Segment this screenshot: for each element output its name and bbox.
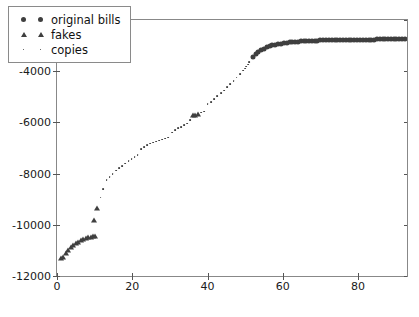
- data-point-copies: [146, 145, 148, 147]
- dot-marker-icon: [40, 49, 42, 51]
- legend-entry-original-bills: original bills: [15, 12, 121, 27]
- x-axis-tick-label: 20: [125, 280, 139, 293]
- data-point-copies: [174, 129, 176, 131]
- data-point-fakes: [92, 233, 98, 238]
- y-tick-mark: [404, 174, 407, 175]
- data-point-copies: [115, 170, 117, 172]
- data-point-copies: [100, 197, 102, 199]
- y-tick-mark: [57, 71, 60, 72]
- legend-label-copies: copies: [51, 43, 88, 57]
- data-point-copies: [112, 173, 114, 175]
- y-tick-mark: [57, 225, 60, 226]
- data-point-fakes: [94, 206, 100, 211]
- y-tick-mark: [404, 20, 407, 21]
- x-axis-tick-label: 60: [276, 280, 290, 293]
- data-point-copies: [149, 143, 151, 145]
- data-point-copies: [143, 147, 145, 149]
- chart-legend: original bills fakes copies: [8, 6, 131, 63]
- y-axis-tick-label: -10000: [12, 218, 51, 231]
- data-point-copies: [158, 140, 160, 142]
- x-tick-mark: [132, 273, 133, 276]
- data-point-copies: [121, 165, 123, 167]
- data-point-copies: [155, 141, 157, 143]
- legend-label-original-bills: original bills: [51, 13, 121, 27]
- data-point-copies: [233, 80, 235, 82]
- data-point-copies: [125, 163, 127, 165]
- data-point-copies: [220, 93, 222, 95]
- data-point-copies: [207, 104, 209, 106]
- data-point-copies: [210, 101, 212, 103]
- y-axis-tick-label: -12000: [12, 270, 51, 283]
- y-tick-mark: [404, 276, 407, 277]
- data-point-copies: [247, 64, 249, 66]
- data-point-fakes: [91, 217, 97, 222]
- triangle-marker-icon: [38, 32, 44, 37]
- y-tick-mark: [404, 71, 407, 72]
- legend-label-fakes: fakes: [51, 28, 81, 42]
- data-point-copies: [226, 86, 228, 88]
- data-point-copies: [152, 142, 154, 144]
- legend-marker-fakes: [15, 32, 49, 37]
- data-point-copies: [244, 68, 246, 70]
- y-tick-mark: [404, 225, 407, 226]
- x-tick-mark: [283, 273, 284, 276]
- x-axis-tick-label: 80: [351, 280, 365, 293]
- data-point-copies: [189, 119, 191, 121]
- data-point-copies: [216, 95, 218, 97]
- x-axis-tick-label: 40: [201, 280, 215, 293]
- data-point-copies: [239, 73, 241, 75]
- y-axis-tick-label: -6000: [19, 116, 51, 129]
- data-point-original-bills: [403, 37, 407, 42]
- dot-marker-icon: [23, 49, 25, 51]
- data-point-copies: [102, 188, 104, 190]
- data-point-copies: [128, 160, 130, 162]
- y-tick-mark: [404, 122, 407, 123]
- data-point-copies: [183, 124, 185, 126]
- data-point-copies: [140, 148, 142, 150]
- y-axis-tick-label: -8000: [19, 167, 51, 180]
- data-point-copies: [137, 155, 139, 157]
- data-point-copies: [161, 139, 163, 141]
- data-point-copies: [177, 127, 179, 129]
- data-point-copies: [203, 111, 205, 113]
- circle-marker-icon: [38, 17, 43, 22]
- data-point-copies: [118, 167, 120, 169]
- x-axis-tick-label: 0: [54, 280, 61, 293]
- data-point-copies: [213, 98, 215, 100]
- legend-marker-copies: [15, 49, 49, 51]
- data-point-copies: [167, 137, 169, 139]
- data-point-copies: [186, 123, 188, 125]
- y-tick-mark: [57, 174, 60, 175]
- y-axis-tick-label: -4000: [19, 65, 51, 78]
- data-point-copies: [200, 112, 202, 114]
- data-point-copies: [131, 158, 133, 160]
- x-tick-mark: [57, 273, 58, 276]
- legend-marker-original-bills: [15, 17, 49, 22]
- triangle-marker-icon: [21, 32, 27, 37]
- y-tick-mark: [57, 122, 60, 123]
- circle-marker-icon: [21, 17, 26, 22]
- data-point-copies: [242, 70, 244, 72]
- data-point-copies: [180, 126, 182, 128]
- data-point-copies: [106, 179, 108, 181]
- data-point-copies: [109, 176, 111, 178]
- data-point-copies: [236, 77, 238, 79]
- legend-entry-copies: copies: [15, 42, 121, 57]
- data-point-copies: [223, 90, 225, 92]
- data-point-copies: [229, 83, 231, 85]
- data-point-copies: [134, 157, 136, 159]
- x-tick-mark: [358, 273, 359, 276]
- chart-figure: -12000-10000-8000-6000-4000-200002040608…: [0, 0, 419, 317]
- legend-entry-fakes: fakes: [15, 27, 121, 42]
- data-point-copies: [171, 132, 173, 134]
- data-point-copies: [164, 138, 166, 140]
- x-tick-mark: [208, 273, 209, 276]
